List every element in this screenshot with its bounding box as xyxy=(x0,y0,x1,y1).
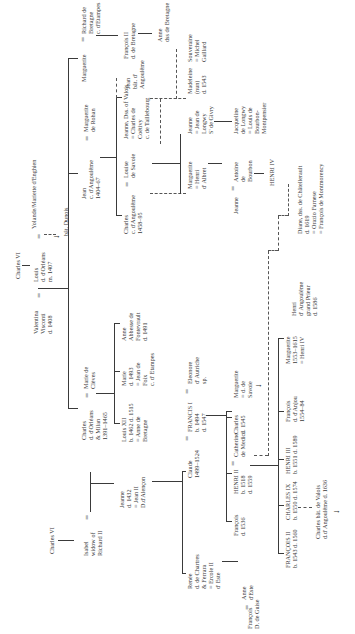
node-souveraine: Souveraine = Michel Gaillard xyxy=(186,34,207,62)
node-francois-ii: FRANÇOIS II b. 1543 d. 1560 xyxy=(284,529,298,568)
line xyxy=(250,465,278,466)
node-yolande: Yolande/Mariette d'Enghien xyxy=(30,160,37,229)
node-jean-angouleme: Jean c. d'Angoulême 1404–67 xyxy=(80,160,101,199)
line xyxy=(226,411,232,412)
node-charles-ix: CHARLES IX b. 1550 d. 1574 xyxy=(284,481,298,520)
node-richard-bretagne: Richard de Bretagne c. d'Etampes xyxy=(80,3,101,34)
dotted-line xyxy=(150,98,186,99)
line xyxy=(206,415,226,416)
node-charles-vi-left: Charles VI xyxy=(48,527,55,554)
line xyxy=(152,163,180,164)
line xyxy=(152,481,182,482)
marriage-sign: = xyxy=(84,136,91,141)
down-arrow-icon: ↓ xyxy=(52,235,61,240)
marriage-sign: = xyxy=(84,515,91,520)
marriage-sign: = xyxy=(36,293,43,298)
node-henri-ii: HENRI II b. 1518 d. 1559 xyxy=(232,469,253,494)
node-madeleine: Madeleine (nun) d. 1543 xyxy=(186,68,207,94)
line xyxy=(182,472,183,574)
marriage-sign: = xyxy=(124,182,131,187)
node-charles-1545: Charles d. 1545 xyxy=(232,415,246,434)
node-jeanne-longwy: Jeanne = Jean de Longwy S' de Givry xyxy=(186,106,214,134)
dotted-line xyxy=(160,99,161,144)
node-charles-orleans: Charles d. d'Orléans & Milan 1391–1465 xyxy=(80,410,108,440)
dotted-line xyxy=(254,455,268,456)
node-henri-iii: HENRI III b. 1551 d. 1589 xyxy=(284,435,298,474)
node-jean-bat: Jean bât. d' Angoulême xyxy=(124,60,145,89)
line xyxy=(38,288,68,289)
node-henri-angouleme: Henri d' Angoulême grand Prieur d. 1586 xyxy=(290,282,318,316)
node-henri-iv: HENRI IV xyxy=(268,159,275,186)
dotted-line xyxy=(278,216,279,251)
dotted-line xyxy=(176,49,177,99)
line xyxy=(180,134,181,194)
line xyxy=(68,59,69,409)
down-arrow-icon: ↓ xyxy=(254,384,263,389)
node-charles-bat: Charles bât. de Valois d.d' Angoulême d.… xyxy=(314,480,328,539)
line xyxy=(68,408,78,409)
line xyxy=(138,33,152,34)
node-charles-vi-root: Charles VI xyxy=(14,252,21,279)
line xyxy=(58,540,74,541)
node-louis: Louis d. d'Orléans m. 1407 xyxy=(32,252,53,282)
line xyxy=(68,58,78,59)
marriage-sign: = xyxy=(84,393,91,398)
line xyxy=(96,393,114,394)
node-renee: Renée d. de Chartres & Ferrara = Ercole … xyxy=(186,554,221,589)
marriage-sign: = xyxy=(184,389,191,394)
line xyxy=(22,265,30,266)
node-marguerite-savoie: Marguerite = d. de Savoie xyxy=(232,371,253,398)
node-charles-angouleme: Charles c. d'Angoulême 1458–95 xyxy=(122,195,143,234)
dotted-line xyxy=(278,215,288,216)
marriage-sign: = xyxy=(230,461,237,466)
node-marguerite-henri-iv: Marguerite 1553–1615 = Henri IV xyxy=(284,336,305,364)
node-jeanne-antoine: Jeanne xyxy=(232,197,239,214)
node-anne-fontevrault: Anne Abbesse de Fontevrault d. 1491 xyxy=(120,312,148,341)
line xyxy=(254,173,264,174)
line xyxy=(116,98,117,216)
node-marguerite-rohan: Marguerite de Rohan xyxy=(82,105,96,132)
dotted-line xyxy=(268,250,278,251)
dotted-line xyxy=(116,78,117,98)
node-anne-bretagne-top: Anne dss de Bretagne xyxy=(156,3,170,42)
line xyxy=(90,472,91,512)
node-louis-xii: Louis XII b. 1462 d. 1515 = Anne de Bret… xyxy=(120,403,148,442)
node-francois-1536: François d. 1536 xyxy=(232,515,246,536)
node-marguerite-albret: Marguerite = Henri d' Albret xyxy=(186,162,207,189)
node-francois-anjou: François d. d'Anjou 1554–84 xyxy=(284,396,305,422)
line xyxy=(208,163,222,164)
node-diane: Diane, dss. de Châtellerault d. 1619 = O… xyxy=(296,164,324,234)
dotted-line xyxy=(268,251,269,456)
node-eleonore: Eleonore d' Autriche sp. xyxy=(186,357,207,384)
line xyxy=(226,412,227,522)
node-jacqueline: Jacqueline de Longwy = Louis de Bourbon-… xyxy=(232,103,267,134)
line xyxy=(222,561,238,562)
down-arrow-icon: ↓ xyxy=(332,510,341,515)
node-marguerite: Marguerite xyxy=(80,55,87,82)
line xyxy=(278,339,279,554)
dotted-line xyxy=(288,184,289,216)
node-marie-cleves: Marie de Clèves xyxy=(82,367,96,389)
line xyxy=(96,35,118,36)
node-isabel: Isabel widow of Richard II xyxy=(82,531,103,556)
node-louise-savoie: Louise de Savoie xyxy=(122,154,136,178)
line xyxy=(100,157,116,158)
node-valentina: Valentina Visconti d. 1408 xyxy=(32,311,53,334)
node-catherine: Catherine de Medici xyxy=(232,432,246,457)
node-francis-i: FRANCIS I b. 1494 d. 1547 xyxy=(186,402,207,432)
node-francois-guise: François D. de Guise xyxy=(246,600,260,629)
marriage-sign: = xyxy=(36,234,43,239)
node-francois-ii-bretagne: François II d. de Bretagne xyxy=(122,23,136,59)
line xyxy=(114,324,115,424)
node-antoine: Antoine de Bourbon xyxy=(232,160,253,182)
dotted-line xyxy=(298,507,312,508)
marriage-sign: = xyxy=(184,436,191,441)
node-claude: Claude 1499–1524 xyxy=(186,450,200,478)
marriage-sign: = xyxy=(230,186,237,191)
node-anne-este: Anne d'Este xyxy=(240,585,254,600)
line xyxy=(90,483,114,484)
family-tree-diagram: Charles VI Valentina Visconti d. 1408 = … xyxy=(0,0,355,634)
node-marie-1493: Marie d. 1493 = Jean de Foix c. d' Etamp… xyxy=(120,353,155,386)
line xyxy=(68,173,78,174)
marriage-sign: = xyxy=(80,37,87,42)
